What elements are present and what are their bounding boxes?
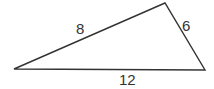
side-label-8: 8: [76, 20, 84, 37]
triangle: [14, 3, 205, 70]
side-label-6: 6: [182, 17, 190, 34]
side-label-12: 12: [119, 71, 136, 88]
triangle-diagram: 8 6 12: [0, 0, 214, 89]
